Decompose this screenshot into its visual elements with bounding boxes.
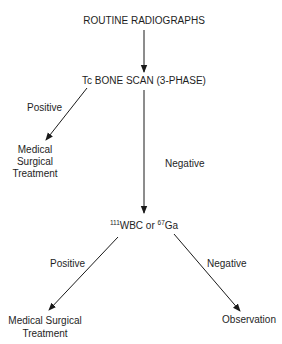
treatment-1-line-1: Medical xyxy=(12,144,57,156)
treatment-2-line-2: Treatment xyxy=(8,327,81,340)
isotope-67: 67 xyxy=(158,219,165,226)
node-medical-surgical-treatment-1: Medical Surgical Treatment xyxy=(12,144,57,180)
edge-label-negative-2: Negative xyxy=(207,258,246,270)
wbc-or-text: WBC or xyxy=(120,220,158,231)
edge-label-positive-1: Positive xyxy=(27,102,62,114)
edge-label-positive-2: Positive xyxy=(50,258,85,270)
edge-label-negative-1: Negative xyxy=(165,158,204,170)
treatment-1-line-2: Surgical xyxy=(12,156,57,168)
node-wbc-or-ga: 111WBC or 67Ga xyxy=(110,220,178,233)
ga-text: Ga xyxy=(165,220,178,231)
treatment-1-line-3: Treatment xyxy=(12,168,57,180)
arrow-bone-scan-positive xyxy=(46,88,87,140)
treatment-2-line-1: Medical Surgical xyxy=(8,314,81,327)
isotope-111: 111 xyxy=(110,219,120,226)
arrow-wbc-negative xyxy=(174,234,240,311)
node-routine-radiographs: ROUTINE RADIOGRAPHS xyxy=(83,15,205,27)
node-bone-scan: Tc BONE SCAN (3-PHASE) xyxy=(82,75,206,87)
arrow-wbc-positive xyxy=(49,237,118,310)
node-medical-surgical-treatment-2: Medical Surgical Treatment xyxy=(8,314,81,340)
node-observation: Observation xyxy=(222,314,276,326)
